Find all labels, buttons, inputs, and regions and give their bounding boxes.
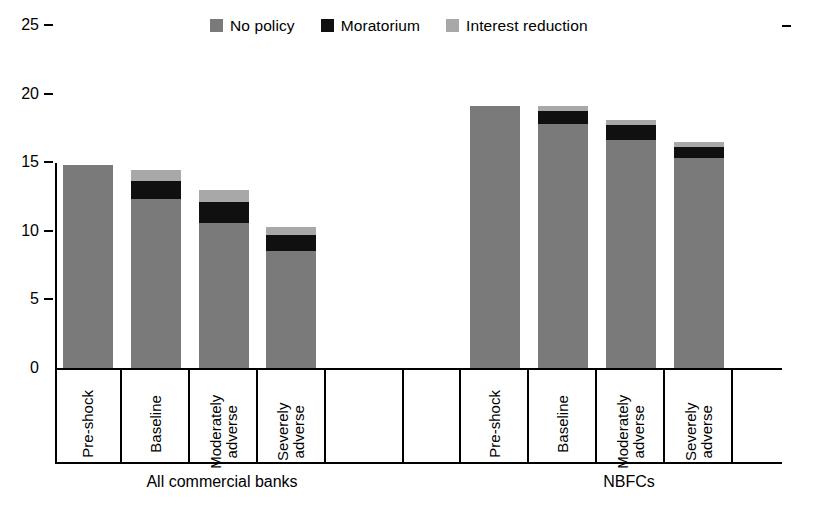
bar-segment-no-policy: [606, 140, 656, 368]
bar-segment-moratorium: [674, 147, 724, 158]
bar-segment-interest-reduction: [131, 170, 181, 181]
category-label: Pre-shock: [80, 380, 96, 468]
bar-segment-interest-reduction: [538, 106, 588, 111]
bar-segment-interest-reduction: [266, 227, 316, 235]
bar-2[interactable]: [131, 170, 181, 368]
category-separator: [527, 368, 529, 464]
bar-segment-moratorium: [131, 181, 181, 199]
bar-segment-moratorium: [266, 235, 316, 251]
category-separator: [663, 368, 665, 464]
bar-segment-no-policy: [470, 106, 520, 368]
bar-8[interactable]: [674, 142, 724, 368]
bar-segment-no-policy: [63, 165, 113, 368]
category-separator: [188, 368, 190, 464]
group-edge-separator: [402, 368, 404, 464]
category-label: Pre-shock: [487, 380, 503, 468]
bar-segment-no-policy: [199, 223, 249, 368]
bar-segment-interest-reduction: [199, 190, 249, 202]
bar-4[interactable]: [266, 227, 316, 368]
group-rule: [55, 462, 404, 464]
bar-segment-no-policy: [538, 124, 588, 368]
bar-7[interactable]: [606, 120, 656, 368]
category-separator: [256, 368, 258, 464]
bar-segment-moratorium: [538, 111, 588, 123]
category-label: Baseline: [555, 380, 571, 468]
bar-segment-moratorium: [199, 202, 249, 223]
bar-segment-interest-reduction: [606, 120, 656, 125]
bar-6[interactable]: [538, 106, 588, 368]
bar-5[interactable]: [470, 106, 520, 368]
bar-1[interactable]: [63, 165, 113, 368]
bar-segment-no-policy: [131, 199, 181, 368]
category-separator: [459, 368, 461, 464]
group-label-nbfcs: NBFCs: [489, 474, 769, 490]
stacked-bar-chart: No policyMoratoriumInterest reduction 05…: [0, 0, 814, 510]
bar-3[interactable]: [199, 190, 249, 368]
category-separator: [120, 368, 122, 464]
group-rule: [402, 462, 782, 464]
bar-segment-no-policy: [674, 158, 724, 368]
category-separator: [324, 368, 326, 464]
category-label: Baseline: [148, 380, 164, 468]
bar-segment-moratorium: [606, 125, 656, 140]
group-label-all-commercial-banks: All commercial banks: [82, 474, 362, 490]
group-edge-separator: [55, 368, 57, 464]
bar-segment-interest-reduction: [674, 142, 724, 147]
bar-segment-no-policy: [266, 251, 316, 368]
category-separator: [731, 368, 733, 464]
category-separator: [595, 368, 597, 464]
